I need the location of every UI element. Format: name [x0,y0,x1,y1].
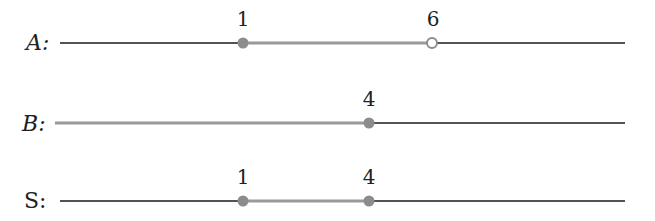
row-label-s: S: [24,188,46,213]
number-line-a: A: 1 6 [24,7,625,55]
point-label: 6 [427,7,440,31]
point-label: 1 [237,165,250,189]
row-label-b: B: [21,111,46,136]
number-line-diagram: A: 1 6 B: 4 S: 1 4 [0,0,655,221]
point-label: 4 [363,87,376,111]
number-line-s: S: 1 4 [24,165,625,213]
open-endpoint-icon [427,38,437,48]
closed-endpoint-icon [364,118,375,129]
closed-endpoint-icon [238,38,249,49]
point-label: 4 [363,165,376,189]
row-label-a: A: [24,30,49,55]
closed-endpoint-icon [238,196,249,207]
closed-endpoint-icon [364,196,375,207]
point-label: 1 [237,7,250,31]
number-line-b: B: 4 [21,87,625,136]
